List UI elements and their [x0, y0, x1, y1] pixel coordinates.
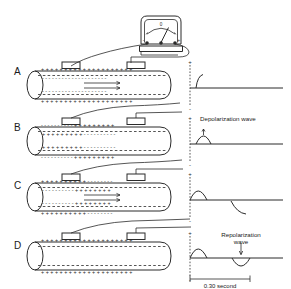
lead-wire-left: [71, 44, 147, 66]
outside-charges-A: + + + + + + + + + + + + + + + + + + + + …: [41, 66, 132, 105]
meter-positive-sign: +: [177, 37, 180, 43]
svg-text:- - - - - - - - - - - - - - -: - - - - - - - - - - - - - - - - - - - -: [42, 88, 107, 94]
trace-axis-A: + -: [188, 59, 192, 112]
axis-plus-C: +: [188, 171, 192, 177]
electrode-right-C: [127, 174, 145, 181]
svg-text:+ + + + + + + + + + + + + + +: + + + + + + + + + + + + + + + + + + + +: [41, 237, 132, 243]
row-label-B: B: [14, 122, 21, 133]
meter-terminal-center: [159, 41, 163, 45]
time-scale-bar: [190, 276, 250, 283]
fiber-tube-D: [27, 242, 171, 270]
row-D: D + + + + + + + + + + + + + + + + + + + …: [14, 219, 283, 289]
meter-zero-label: 0: [160, 22, 163, 27]
lead-wire-C-left: [71, 160, 182, 174]
waveform-D: [190, 243, 283, 266]
svg-text:- - - - - - - - - - + + + + +: - - - - - - - - - - + + + + + + + + +: [41, 154, 114, 160]
charges-C: + + + + + + + + + + - - - - - - - - + + …: [41, 178, 113, 217]
inside-charges-A: - - - - - - - - - - - - - - - - - - - - …: [42, 75, 107, 95]
waveform-A: [190, 75, 283, 89]
charges-D: + + + + + + + + + + + + + + + + + + + + …: [41, 237, 132, 276]
axis-minus-B: -: [189, 162, 191, 168]
svg-text:+ + + + + + + + + + + + + + +: + + + + + + + + + + + + + + + + + + + +: [41, 98, 132, 104]
row-label-A: A: [14, 66, 21, 77]
row-C: C + + + + + + + + + + - - - - - - - - + …: [14, 160, 283, 224]
repolarization-wave-label-line2: wave: [233, 238, 249, 245]
current-flow-arrows-A: [84, 81, 120, 89]
waveform-B: [190, 129, 283, 144]
lead-wire-C-right: [136, 169, 183, 174]
row-label-D: D: [14, 240, 21, 251]
depolarization-wave-label: Depolarization wave: [200, 115, 256, 122]
charges-B: - - - - - - - - - - + + + + + + + + + - …: [41, 122, 115, 161]
waveform-C: [190, 191, 283, 214]
svg-text:- - - - - - - - - - + + + + +: - - - - - - - - - - + + + + + + + + +: [41, 122, 114, 128]
svg-text:+ + + + + + + + + + - - - - -: + + + + + + + + + + - - - - - - - -: [41, 210, 113, 216]
lead-wire-D-right: [136, 227, 191, 233]
svg-text:+ + + + + + + + + - - - - - -: + + + + + + + + + - - - - - - - - - -: [42, 144, 115, 150]
svg-text:- - - - - - - - - - + + + + +: - - - - - - - - - - + + + + + + + +: [42, 187, 111, 193]
membrane-depolarization-figure: 0 - + A + + + + + + + + + + + + + + + + …: [0, 0, 291, 289]
trace-axis-B: + -: [188, 115, 192, 168]
row-B: B - - - - - - - - - - + + + + + + + + + …: [14, 103, 283, 168]
row-A: A + + + + + + + + + + + + + + + + + + + …: [14, 59, 283, 112]
axis-plus-A: +: [188, 59, 192, 65]
galvanometer-meter: 0 - +: [140, 16, 183, 52]
svg-text:+ + + + + + + + + - - - - - -: + + + + + + + + + - - - - - - - - - -: [42, 131, 115, 137]
lead-wire-B-left: [71, 103, 180, 118]
current-flow-arrows-C: [84, 193, 120, 201]
svg-text:- - - - - - - - - - - - - - -: - - - - - - - - - - - - - - - - - - - -: [42, 75, 107, 81]
axis-minus-A: -: [189, 106, 191, 112]
svg-text:+ + + + + + + + + + - - - - -: + + + + + + + + + + - - - - - - - -: [41, 178, 113, 184]
lead-wire-D-left: [71, 219, 190, 233]
electrode-lead-wires: [71, 44, 189, 66]
repolarization-wave-label-line1: Repolarization: [221, 231, 261, 238]
svg-text:- - - - - - - - - - + + + + +: - - - - - - - - - - + + + + + + + +: [42, 200, 111, 206]
svg-text:+ + + + + + + + + + + + + + +: + + + + + + + + + + + + + + + + + + + +: [41, 66, 132, 72]
axis-plus-B: +: [188, 115, 192, 121]
axis-plus-D: +: [188, 230, 192, 236]
lead-wire-B-right: [136, 112, 182, 118]
svg-text:+ + + + + + + + + + + + + + +: + + + + + + + + + + + + + + + + + + + +: [41, 269, 132, 275]
time-scale-label: 0.30 second: [204, 283, 237, 289]
row-label-C: C: [14, 180, 21, 191]
electrode-right-B: [127, 118, 145, 125]
